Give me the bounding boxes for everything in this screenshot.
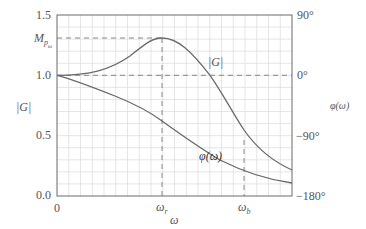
x-tick-omega-r: ωr (156, 201, 168, 216)
y-right-tick-m180: −180° (296, 190, 326, 202)
y-tick-0-0: 0.0 (36, 189, 51, 201)
phase-curve-label: φ(ω) (199, 150, 222, 162)
y-right-tick-90: 90° (297, 9, 314, 21)
y-tick-mp: Mpω (34, 32, 52, 49)
mp-sub: pω (44, 38, 52, 47)
x-tick-omega-b: ωb (238, 201, 250, 216)
y-right-tick-m90: −90° (296, 130, 320, 142)
grid (57, 15, 292, 196)
y-tick-0-5: 0.5 (36, 129, 51, 141)
y-tick-1-5: 1.5 (36, 9, 51, 21)
x-axis-title: ω (170, 214, 178, 226)
x-tick-0: 0 (54, 202, 60, 214)
y-axis-title-phase: φ(ω) (330, 101, 349, 111)
y-right-tick-0: 0° (297, 69, 308, 81)
y-tick-1-0: 1.0 (36, 69, 51, 81)
y-axis-title-magnitude: |G| (16, 101, 31, 113)
mp-label: M (34, 31, 44, 45)
magnitude-curve-label: |G| (208, 56, 223, 68)
